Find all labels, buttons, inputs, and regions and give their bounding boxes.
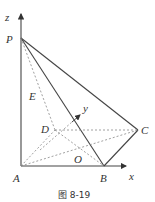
label-D: D: [40, 123, 49, 135]
edge-PB: [21, 38, 104, 166]
label-C: C: [141, 124, 149, 136]
label-z: z: [4, 11, 10, 23]
label-P: P: [5, 33, 13, 45]
edge-PC: [21, 38, 138, 130]
figure-caption: 图 8-19: [58, 190, 91, 200]
label-B: B: [100, 172, 107, 184]
label-y: y: [82, 102, 88, 114]
pyramid-diagram: z P E y D C O A B x 图 8-19: [0, 0, 155, 202]
label-A: A: [12, 172, 20, 184]
label-E: E: [28, 90, 36, 102]
label-x: x: [128, 170, 134, 182]
label-O: O: [74, 153, 82, 165]
